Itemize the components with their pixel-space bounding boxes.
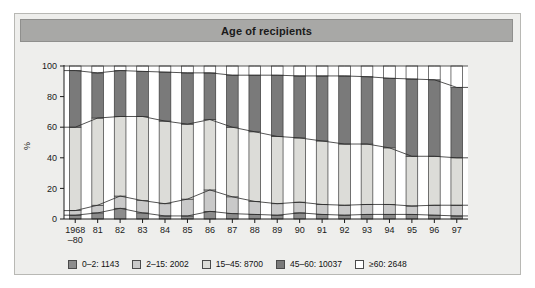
x-tick-label: 1968 (65, 225, 85, 235)
bar-segment (159, 121, 171, 204)
bar-segment (361, 66, 373, 77)
bar-segment (384, 78, 396, 148)
bar-segment (451, 66, 463, 87)
x-tick-label: 96 (429, 225, 439, 235)
bar-segment (339, 215, 351, 219)
bar-segment (69, 215, 81, 219)
bar-segment (294, 76, 306, 138)
bar-segment (361, 214, 373, 219)
bar-segment (182, 66, 194, 73)
bar-segment (294, 66, 306, 76)
bar-segment (227, 197, 239, 214)
bar-segment (249, 201, 261, 214)
bar-segment (249, 75, 261, 132)
legend-swatch-icon (355, 260, 364, 269)
legend-item[interactable]: ≥60: 2648 (355, 259, 407, 269)
x-tick-label: 89 (272, 225, 282, 235)
bar-segment (204, 190, 216, 211)
bar-segment (271, 215, 283, 219)
bar-segment (159, 204, 171, 216)
bar-segment (69, 66, 81, 71)
x-tick-label: 81 (93, 225, 103, 235)
bar-segment (294, 202, 306, 213)
bar-segment (271, 75, 283, 136)
bar-segment (159, 72, 171, 121)
bar-segment (384, 204, 396, 214)
bar-segment (429, 80, 441, 156)
legend-item[interactable]: 0–2: 1143 (68, 259, 119, 269)
bar-segment (429, 215, 441, 219)
bar-segment (227, 66, 239, 75)
bar-segment (204, 66, 216, 73)
bar-segment (451, 87, 463, 157)
legend-item[interactable]: 15–45: 8700 (202, 259, 263, 269)
bar-segment (227, 75, 239, 127)
bar-segment (114, 66, 126, 71)
bar-segment (294, 138, 306, 202)
bar-segment (429, 205, 441, 215)
bar-segment (384, 148, 396, 205)
bar-segment (92, 73, 104, 118)
x-tick-label: 92 (340, 225, 350, 235)
bar-segment (249, 66, 261, 75)
legend-swatch-icon (202, 260, 211, 269)
bar-segment (137, 201, 149, 213)
bar-segment (204, 73, 216, 120)
bar-segment (92, 66, 104, 73)
x-tick-label: 91 (317, 225, 327, 235)
y-tick-label: 20 (47, 184, 57, 194)
legend-swatch-icon (68, 260, 77, 269)
y-tick-label: 40 (47, 153, 57, 163)
y-tick-label: 100 (42, 61, 57, 71)
bar-segment (406, 156, 418, 206)
plot-area: 020406080100%1968–8081828384858687888990… (0, 0, 535, 288)
bar-segment (339, 66, 351, 76)
legend-swatch-icon (276, 260, 285, 269)
legend-label: 15–45: 8700 (216, 259, 263, 269)
bar-segment (339, 205, 351, 215)
legend-item[interactable]: 45–60: 10037 (276, 259, 342, 269)
x-tick-label: 94 (384, 225, 394, 235)
y-tick-label: 0 (52, 214, 57, 224)
x-tick-label: 85 (182, 225, 192, 235)
bar-segment (384, 214, 396, 219)
bar-segment (227, 127, 239, 197)
bar-segment (406, 66, 418, 79)
y-axis-title: % (22, 142, 32, 150)
bar-segment (451, 205, 463, 216)
bar-segment (159, 66, 171, 72)
bar-segment (361, 144, 373, 204)
x-tick-label: 90 (295, 225, 305, 235)
bar-segment (227, 214, 239, 219)
bar-segment (271, 204, 283, 215)
y-tick-label: 60 (47, 122, 57, 132)
stacked-area-chart-svg: 020406080100%1968–8081828384858687888990… (0, 0, 535, 288)
bar-segment (137, 71, 149, 116)
x-tick-label: 86 (205, 225, 215, 235)
bar-segment (114, 71, 126, 117)
bar-segment (384, 66, 396, 78)
bar-segment (137, 116, 149, 200)
bar-segment (137, 66, 149, 71)
bar-segment (406, 206, 418, 214)
bar-segment (361, 77, 373, 144)
bar-segment (316, 76, 328, 141)
x-tick-label: 84 (160, 225, 170, 235)
bar-segment (249, 214, 261, 219)
x-tick-label: 82 (115, 225, 125, 235)
bar-segment (69, 127, 81, 210)
bar-segment (204, 120, 216, 190)
bar-segment (406, 79, 418, 156)
chart-legend: 0–2: 11432–15: 200215–45: 870045–60: 100… (68, 256, 468, 272)
bar-segment (451, 158, 463, 205)
legend-item[interactable]: 2–15: 2002 (132, 259, 189, 269)
legend-label: ≥60: 2648 (369, 259, 407, 269)
bar-segment (294, 213, 306, 219)
x-tick-label: 88 (250, 225, 260, 235)
x-tick-label: 95 (407, 225, 417, 235)
bar-segment (271, 136, 283, 203)
legend-label: 2–15: 2002 (146, 259, 189, 269)
bar-segment (114, 208, 126, 219)
bar-segment (429, 156, 441, 205)
bar-segment (339, 76, 351, 144)
